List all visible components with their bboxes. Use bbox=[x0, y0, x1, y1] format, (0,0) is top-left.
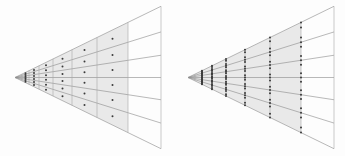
sample-point bbox=[244, 87, 246, 89]
sample-point bbox=[269, 40, 271, 42]
sample-point bbox=[244, 51, 246, 53]
sample-point-node bbox=[211, 77, 213, 79]
sample-point bbox=[300, 89, 302, 91]
sample-point bbox=[62, 58, 64, 60]
sample-point bbox=[84, 93, 86, 95]
sample-point-node bbox=[269, 37, 271, 39]
sample-point bbox=[269, 106, 271, 108]
sample-point bbox=[300, 81, 302, 83]
sample-point-node bbox=[211, 73, 213, 75]
sample-point-node bbox=[244, 77, 246, 79]
sample-point bbox=[269, 86, 271, 88]
sample-point bbox=[33, 75, 35, 77]
wedge-grid-figure bbox=[0, 0, 345, 156]
sample-point bbox=[112, 38, 114, 40]
sample-point bbox=[269, 73, 271, 75]
sample-point-node bbox=[300, 77, 302, 79]
sample-point bbox=[45, 74, 47, 76]
sample-point-node bbox=[201, 77, 203, 79]
sample-point bbox=[33, 78, 35, 80]
sample-point-node bbox=[211, 80, 213, 82]
sample-point-node bbox=[211, 65, 213, 67]
sample-point-node bbox=[300, 21, 302, 23]
sample-point bbox=[269, 54, 271, 56]
sample-point bbox=[112, 99, 114, 101]
sample-point bbox=[33, 84, 35, 86]
sample-point bbox=[62, 87, 64, 89]
sample-point-node bbox=[244, 94, 246, 96]
sample-point-node bbox=[269, 89, 271, 91]
panel-right bbox=[188, 6, 334, 148]
sample-point bbox=[300, 107, 302, 109]
sample-point-node bbox=[244, 68, 246, 70]
sample-point bbox=[84, 49, 86, 51]
sample-point bbox=[25, 81, 27, 83]
sample-point bbox=[62, 95, 64, 97]
sample-point bbox=[300, 27, 302, 29]
sample-point-node bbox=[201, 81, 203, 83]
sample-point bbox=[112, 84, 114, 86]
sample-point-node bbox=[269, 51, 271, 53]
sample-point-node bbox=[300, 112, 302, 114]
sample-point-node bbox=[211, 84, 213, 86]
sample-point bbox=[25, 79, 27, 81]
sample-point-node bbox=[225, 77, 227, 79]
sample-point bbox=[244, 102, 246, 104]
sample-point-node bbox=[201, 74, 203, 76]
sample-point bbox=[244, 66, 246, 68]
sample-point-node bbox=[244, 49, 246, 51]
sample-point bbox=[244, 74, 246, 76]
panel-left bbox=[15, 6, 161, 148]
sample-point-node bbox=[300, 41, 302, 43]
sample-point bbox=[62, 66, 64, 68]
sample-point bbox=[45, 89, 47, 91]
sample-point-node bbox=[225, 82, 227, 84]
sample-point bbox=[269, 99, 271, 101]
sample-point-node bbox=[211, 88, 213, 90]
sample-point bbox=[84, 60, 86, 62]
sample-point bbox=[269, 92, 271, 94]
sample-point bbox=[300, 98, 302, 100]
sample-point bbox=[84, 82, 86, 84]
sample-point bbox=[300, 36, 302, 38]
sample-point bbox=[244, 56, 246, 58]
sample-point-node bbox=[225, 95, 227, 97]
sample-point-node bbox=[300, 132, 302, 134]
sample-point bbox=[269, 47, 271, 49]
sample-point bbox=[300, 126, 302, 128]
sample-point-node bbox=[201, 70, 203, 72]
sample-point bbox=[84, 104, 86, 106]
sample-point bbox=[45, 84, 47, 86]
sample-point bbox=[269, 113, 271, 115]
sample-point bbox=[62, 73, 64, 75]
sample-point-node bbox=[201, 72, 203, 74]
sample-point bbox=[45, 64, 47, 66]
sample-point bbox=[112, 115, 114, 117]
sample-point-node bbox=[269, 116, 271, 118]
sample-point-node bbox=[269, 64, 271, 66]
sample-point bbox=[300, 46, 302, 48]
sample-point-node bbox=[269, 77, 271, 79]
sample-point-node bbox=[201, 83, 203, 85]
sample-point bbox=[33, 69, 35, 71]
sample-point bbox=[62, 80, 64, 82]
sample-point bbox=[269, 80, 271, 82]
sample-point bbox=[25, 72, 27, 74]
sample-point-node bbox=[300, 94, 302, 96]
sample-point-node bbox=[225, 88, 227, 90]
sample-point bbox=[84, 71, 86, 73]
sample-point bbox=[269, 67, 271, 69]
sample-point bbox=[300, 117, 302, 119]
sample-point bbox=[244, 92, 246, 94]
sample-point bbox=[112, 69, 114, 71]
sample-point bbox=[33, 81, 35, 83]
sample-point bbox=[300, 72, 302, 74]
sample-point-node bbox=[300, 59, 302, 61]
sample-point-node bbox=[269, 102, 271, 104]
sample-point-node bbox=[225, 71, 227, 73]
sample-point bbox=[225, 60, 227, 62]
sample-point bbox=[244, 79, 246, 81]
sample-point bbox=[45, 69, 47, 71]
sample-point bbox=[45, 79, 47, 81]
sample-point bbox=[244, 97, 246, 99]
